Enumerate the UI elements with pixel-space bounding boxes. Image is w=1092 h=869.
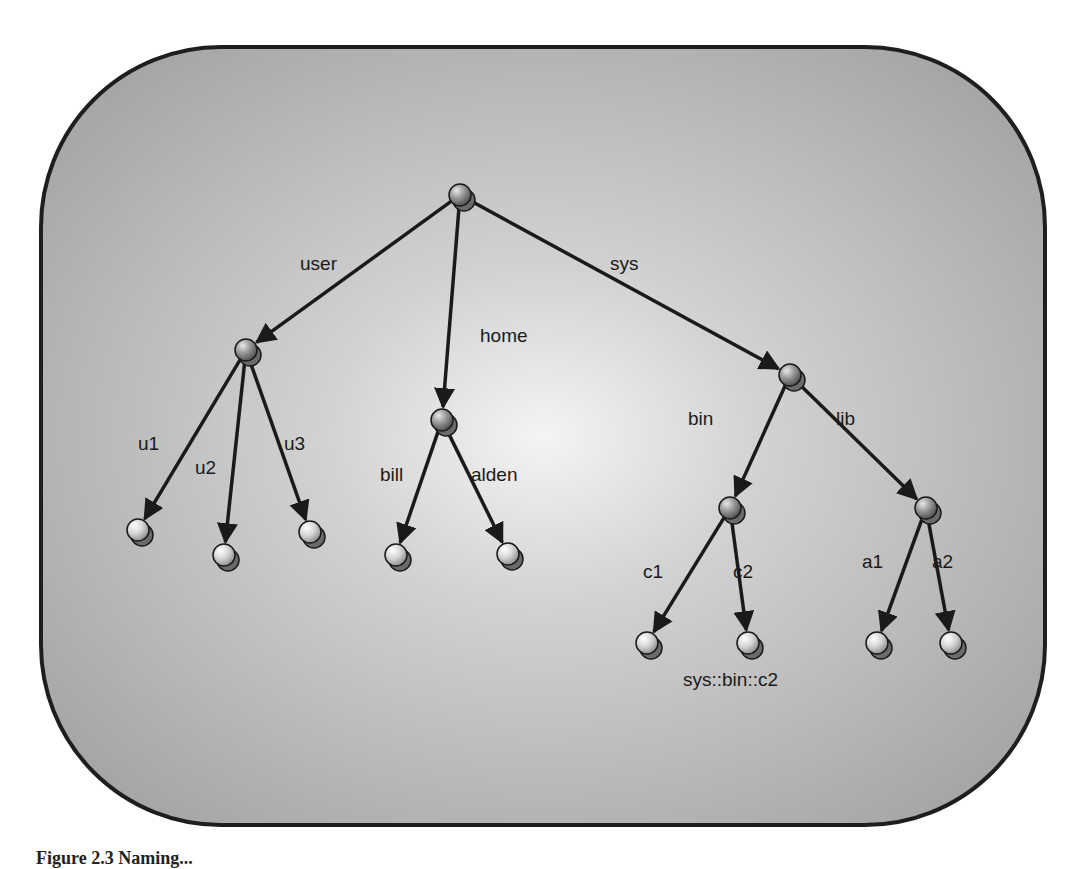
edge-label-user: user: [300, 253, 338, 274]
edge-label-u3: u3: [284, 433, 305, 454]
edge-label-u1: u1: [138, 433, 159, 454]
edge-label-bill: bill: [380, 464, 403, 485]
edge-label-a2: a2: [932, 551, 953, 572]
figure-caption: Figure 2.3 Naming...: [36, 848, 193, 869]
rounded-frame: [41, 47, 1045, 825]
edge-label-u2: u2: [195, 457, 216, 478]
edge-label-bin: bin: [688, 408, 713, 429]
edge-label-sys: sys: [610, 253, 639, 274]
edge-label-alden: alden: [471, 464, 518, 485]
edge-label-a1: a1: [862, 551, 883, 572]
edge-label-home: home: [480, 325, 528, 346]
edge-label-c2: c2: [733, 561, 753, 582]
edge-label-lib: lib: [836, 408, 855, 429]
path-label-sys-bin-c2: sys::bin::c2: [683, 669, 778, 690]
edge-label-c1: c1: [643, 561, 663, 582]
